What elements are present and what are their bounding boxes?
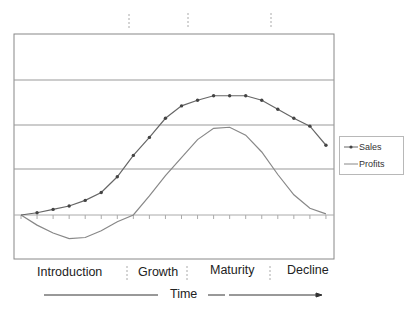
sales-data-point xyxy=(276,108,279,111)
sales-data-point xyxy=(51,208,54,211)
plot-frame xyxy=(14,34,334,259)
stage-label-decline: Decline xyxy=(287,263,329,277)
sales-data-point xyxy=(100,191,103,194)
profits-series-line xyxy=(21,127,326,238)
top-stage-markers xyxy=(129,13,271,28)
gridlines xyxy=(14,80,334,169)
sales-data-point xyxy=(84,199,87,202)
sales-data-point xyxy=(35,211,38,214)
legend-label-profits: Profits xyxy=(359,159,385,169)
sales-data-point xyxy=(212,94,215,97)
x-axis-title: Time xyxy=(170,287,197,301)
sales-data-point xyxy=(196,99,199,102)
sales-data-point xyxy=(292,117,295,120)
sales-series-line xyxy=(21,96,326,215)
sales-data-point xyxy=(132,154,135,157)
profits-legend-line-icon xyxy=(344,160,358,168)
sales-data-point xyxy=(164,117,167,120)
stage-label-maturity: Maturity xyxy=(210,263,254,277)
sales-data-point xyxy=(148,136,151,139)
sales-data-point xyxy=(244,94,247,97)
sales-data-point xyxy=(67,204,70,207)
legend-item-sales: Sales xyxy=(344,142,382,152)
sales-data-point xyxy=(308,124,311,127)
sales-data-point xyxy=(228,94,231,97)
sales-data-point xyxy=(116,175,119,178)
sales-legend-marker-icon xyxy=(344,143,358,151)
legend-item-profits: Profits xyxy=(344,159,385,169)
legend-label-sales: Sales xyxy=(359,142,382,152)
chart-legend: Sales Profits xyxy=(339,136,404,175)
x-axis-ticks xyxy=(21,215,326,219)
sales-data-point xyxy=(324,144,327,147)
sales-data-point xyxy=(180,104,183,107)
sales-data-point xyxy=(260,99,263,102)
stage-label-growth: Growth xyxy=(138,265,178,279)
stage-label-introduction: Introduction xyxy=(37,265,102,279)
